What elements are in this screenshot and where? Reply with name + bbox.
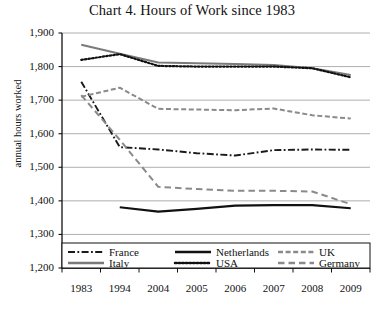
- chart-container: Chart 4. Hours of Work since 1983 annual…: [0, 0, 384, 311]
- x-tick-label: 2004: [139, 282, 178, 294]
- x-tick-label: 2007: [255, 282, 294, 294]
- series-usa: [81, 54, 351, 77]
- series-italy: [81, 45, 351, 75]
- plot-area: FranceNetherlandsUKItalyUSAGermany: [0, 0, 384, 311]
- x-tick-label: 1983: [62, 282, 101, 294]
- x-tick-label: 2006: [216, 282, 255, 294]
- legend-label-italy: Italy: [109, 257, 130, 269]
- series-lines: [81, 45, 351, 212]
- series-germany: [81, 95, 351, 204]
- x-tick-label: 2005: [178, 282, 217, 294]
- series-uk: [81, 88, 351, 119]
- series-netherlands: [120, 205, 351, 211]
- legend: FranceNetherlandsUKItalyUSAGermany: [62, 243, 370, 269]
- x-tick-label: 2008: [293, 282, 332, 294]
- x-tick-label: 1994: [101, 282, 140, 294]
- legend-label-usa: USA: [216, 257, 238, 269]
- gridlines: [62, 33, 370, 268]
- x-tick-label: 2009: [332, 282, 371, 294]
- series-france: [81, 82, 351, 156]
- legend-label-germany: Germany: [319, 257, 360, 269]
